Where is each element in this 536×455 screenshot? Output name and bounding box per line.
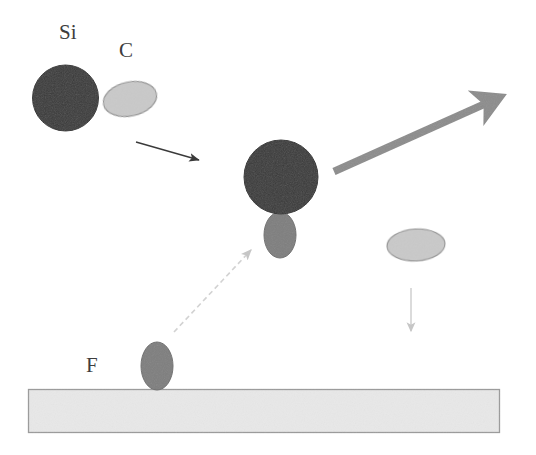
diagram-canvas xyxy=(0,0,536,455)
si-atom-left xyxy=(33,65,99,131)
f-atom-bonded xyxy=(264,212,296,258)
c-atom-released xyxy=(386,228,446,263)
si-atom-label: Si xyxy=(59,22,77,43)
substrate-slab xyxy=(29,390,500,433)
outgoing-product-arrow xyxy=(334,98,498,172)
incoming-trajectory-arrow xyxy=(136,142,199,160)
c-atom-label: C xyxy=(119,40,133,61)
c-atom-left xyxy=(100,77,160,121)
f-atom-surface xyxy=(141,342,173,390)
f-uptake-arrow xyxy=(174,250,251,332)
si-atom-middle xyxy=(244,140,318,214)
reaction-diagram: Si C F xyxy=(0,0,536,455)
f-atom-label: F xyxy=(86,355,98,376)
